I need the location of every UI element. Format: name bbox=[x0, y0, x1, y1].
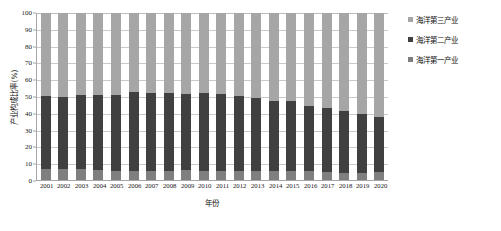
bar-segment-primary bbox=[269, 171, 279, 180]
x-axis-tick-label: 2003 bbox=[75, 182, 85, 189]
bar-segment-tertiary bbox=[234, 13, 244, 96]
bar-segment-primary bbox=[93, 170, 103, 180]
bar-segment-secondary bbox=[111, 95, 121, 171]
bar-column bbox=[146, 13, 156, 180]
bar-segment-tertiary bbox=[286, 13, 296, 101]
bar-segment-primary bbox=[216, 171, 226, 180]
bar-segment-tertiary bbox=[76, 13, 86, 95]
bar-segment-primary bbox=[339, 173, 349, 181]
bar-segment-primary bbox=[251, 171, 261, 180]
stacked-bar-chart: 产业构成比率(%) 0102030405060708090100 2001200… bbox=[0, 0, 501, 231]
x-axis-tick-label: 2010 bbox=[198, 182, 208, 189]
bar-segment-secondary bbox=[129, 92, 139, 170]
bar-column bbox=[304, 13, 314, 180]
bar-segment-tertiary bbox=[181, 13, 191, 94]
x-axis-tick-label: 2016 bbox=[304, 182, 314, 189]
bar-segment-primary bbox=[164, 171, 174, 180]
bar-segment-secondary bbox=[58, 97, 68, 169]
x-axis-title: 年份 bbox=[36, 197, 388, 208]
bar-segment-secondary bbox=[286, 101, 296, 171]
bar-segment-primary bbox=[304, 171, 314, 180]
x-axis-tick-label: 2002 bbox=[57, 182, 67, 189]
plot-area bbox=[36, 13, 388, 181]
x-axis-tick-label: 2008 bbox=[163, 182, 173, 189]
bar-column bbox=[251, 13, 261, 180]
bar-segment-secondary bbox=[216, 94, 226, 171]
bar-segment-secondary bbox=[374, 117, 384, 172]
bar-segment-secondary bbox=[76, 95, 86, 169]
bar-column bbox=[269, 13, 279, 180]
y-axis-tick-label: 50 bbox=[25, 93, 32, 101]
legend-swatch-icon bbox=[408, 17, 413, 22]
bar-segment-tertiary bbox=[304, 13, 314, 106]
bar-column bbox=[164, 13, 174, 180]
bar-segment-tertiary bbox=[129, 13, 139, 92]
bar-segment-tertiary bbox=[146, 13, 156, 93]
bar-segment-primary bbox=[76, 169, 86, 180]
bar-segment-secondary bbox=[164, 93, 174, 172]
chart-legend: 海洋第三产业海洋第二产业海洋第一产业 bbox=[408, 14, 500, 65]
legend-item[interactable]: 海洋第一产业 bbox=[408, 54, 500, 65]
bar-segment-tertiary bbox=[251, 13, 261, 98]
bar-column bbox=[374, 13, 384, 180]
bar-column bbox=[234, 13, 244, 180]
bar-segment-secondary bbox=[93, 95, 103, 170]
x-axis-tick-label: 2004 bbox=[92, 182, 102, 189]
bar-segment-tertiary bbox=[93, 13, 103, 95]
y-axis-tick-label: 30 bbox=[25, 127, 32, 135]
bar-segment-secondary bbox=[339, 111, 349, 173]
bar-segment-tertiary bbox=[164, 13, 174, 93]
bar-segment-tertiary bbox=[41, 13, 51, 96]
y-axis-tick-label: 60 bbox=[25, 76, 32, 84]
bar-column bbox=[41, 13, 51, 180]
bar-column bbox=[286, 13, 296, 180]
bar-segment-secondary bbox=[146, 93, 156, 171]
bar-segment-tertiary bbox=[111, 13, 121, 95]
y-axis-tick-label: 100 bbox=[22, 9, 33, 17]
legend-item-label: 海洋第一产业 bbox=[416, 54, 458, 65]
bar-segment-secondary bbox=[199, 93, 209, 171]
x-axis-tick-label: 2012 bbox=[233, 182, 243, 189]
bar-segment-primary bbox=[146, 171, 156, 180]
legend-item[interactable]: 海洋第二产业 bbox=[408, 34, 500, 45]
x-axis-tick-label: 2015 bbox=[286, 182, 296, 189]
bar-segment-tertiary bbox=[357, 13, 367, 114]
bar-column bbox=[76, 13, 86, 180]
y-axis-tick-label: 0 bbox=[29, 177, 33, 185]
legend-item-label: 海洋第二产业 bbox=[416, 34, 458, 45]
bar-segment-tertiary bbox=[269, 13, 279, 101]
bar-column bbox=[93, 13, 103, 180]
bar-segment-tertiary bbox=[322, 13, 332, 108]
y-axis-tick-label: 40 bbox=[25, 110, 32, 118]
bar-segment-primary bbox=[286, 171, 296, 180]
bar-segment-primary bbox=[181, 170, 191, 180]
bar-segment-primary bbox=[357, 173, 367, 180]
bar-column bbox=[129, 13, 139, 180]
bar-segment-secondary bbox=[181, 94, 191, 171]
x-axis-tick-label: 2017 bbox=[321, 182, 331, 189]
bar-segment-secondary bbox=[41, 96, 51, 169]
bar-segment-secondary bbox=[269, 101, 279, 171]
bar-segment-tertiary bbox=[58, 13, 68, 97]
bar-segment-tertiary bbox=[339, 13, 349, 111]
bar-column bbox=[58, 13, 68, 180]
y-axis-tick-label: 10 bbox=[25, 160, 32, 168]
y-axis-tick-label: 90 bbox=[25, 26, 32, 34]
bar-column bbox=[199, 13, 209, 180]
y-axis-tick-label: 20 bbox=[25, 143, 32, 151]
bar-segment-tertiary bbox=[374, 13, 384, 117]
x-axis-tick-label: 2018 bbox=[339, 182, 349, 189]
bar-segment-secondary bbox=[304, 106, 314, 172]
bar-segment-secondary bbox=[234, 96, 244, 171]
x-axis-tick-label: 2005 bbox=[110, 182, 120, 189]
legend-swatch-icon bbox=[408, 37, 413, 42]
x-axis-tick-label: 2014 bbox=[268, 182, 278, 189]
legend-item[interactable]: 海洋第三产业 bbox=[408, 14, 500, 25]
x-axis-tick-label: 2019 bbox=[356, 182, 366, 189]
x-axis-tick-label: 2020 bbox=[374, 182, 384, 189]
bar-segment-secondary bbox=[322, 108, 332, 172]
bar-column bbox=[216, 13, 226, 180]
x-axis-tick-label: 2013 bbox=[251, 182, 261, 189]
y-axis-tick-label: 70 bbox=[25, 59, 32, 67]
bar-segment-tertiary bbox=[216, 13, 226, 94]
